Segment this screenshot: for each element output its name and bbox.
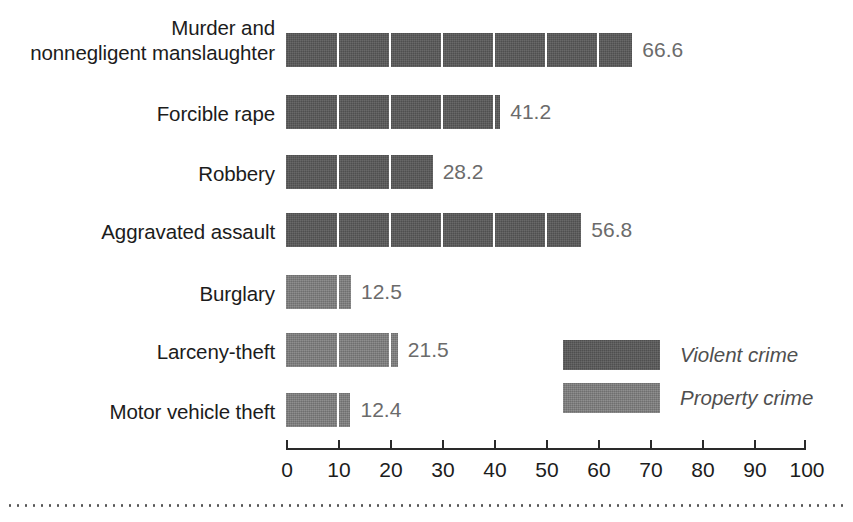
bar-segment-separators: [286, 213, 581, 247]
bar-property: [286, 333, 398, 367]
footer-dotted-rule: [6, 504, 849, 507]
bar-segment-separators: [286, 33, 632, 67]
legend-swatch-property-crime: [563, 383, 660, 413]
bar-segment-separator: [441, 95, 443, 129]
x-axis-tick-label: 0: [281, 458, 293, 482]
legend-label-property-crime: Property crime: [680, 386, 813, 410]
bar-segment-separator: [389, 333, 391, 367]
bar-property: [286, 275, 351, 309]
bar-segment-separator: [337, 155, 339, 189]
x-axis-tick-label: 60: [587, 458, 610, 482]
bar-segment-separator: [337, 275, 339, 309]
bar-segment-separator: [493, 213, 495, 247]
bar-segment-separator: [493, 33, 495, 67]
category-label: Motor vehicle theft: [109, 399, 275, 424]
x-axis-tick-label: 100: [789, 458, 824, 482]
bar-violent: [286, 95, 500, 129]
x-axis-tick: [650, 440, 652, 448]
bar-segment-separator: [389, 155, 391, 189]
x-axis-line: [286, 448, 806, 450]
legend-label-violent-crime: Violent crime: [680, 343, 798, 367]
bar-value-label: 28.2: [443, 155, 484, 189]
x-axis-tick-label: 30: [431, 458, 454, 482]
bar-segment-separator: [389, 213, 391, 247]
x-axis-tick: [546, 440, 548, 448]
bar-segment-separator: [441, 33, 443, 67]
category-label: Forcible rape: [157, 101, 275, 126]
x-axis-tick-label: 10: [327, 458, 350, 482]
bar-value-label: 56.8: [591, 213, 632, 247]
bar-segment-separator: [545, 213, 547, 247]
category-label: Larceny-theft: [157, 339, 275, 364]
category-label: Aggravated assault: [101, 219, 275, 244]
x-axis-tick: [286, 440, 288, 448]
x-axis-tick: [754, 440, 756, 448]
legend-item-property: Property crime: [563, 383, 813, 413]
bar-segment-separators: [286, 275, 351, 309]
x-axis-tick: [390, 440, 392, 448]
x-axis-tick: [442, 440, 444, 448]
x-axis-tick: [338, 440, 340, 448]
x-axis-tick-label: 80: [691, 458, 714, 482]
x-axis-tick-label: 70: [639, 458, 662, 482]
category-label: Murder and nonnegligent manslaughter: [30, 15, 275, 65]
bar-segment-separator: [493, 95, 495, 129]
x-axis-tick: [804, 440, 806, 448]
x-axis-tick: [702, 440, 704, 448]
bar-segment-separators: [286, 393, 350, 427]
category-label: Burglary: [199, 281, 275, 306]
bar-value-label: 21.5: [408, 333, 449, 367]
bar-segment-separator: [597, 33, 599, 67]
bar-segment-separator: [337, 213, 339, 247]
bar-violent: [286, 155, 433, 189]
legend-swatch-violent-crime: [563, 340, 660, 370]
bar-segment-separator: [337, 393, 339, 427]
bar-segment-separator: [337, 333, 339, 367]
bar-value-label: 66.6: [642, 33, 683, 67]
bar-segment-separator: [337, 33, 339, 67]
x-axis-tick-label: 90: [743, 458, 766, 482]
bar-property: [286, 393, 350, 427]
bar-segment-separator: [337, 95, 339, 129]
bar-segment-separator: [389, 95, 391, 129]
bar-segment-separator: [545, 33, 547, 67]
bar-value-label: 12.4: [360, 393, 401, 427]
bar-violent: [286, 213, 581, 247]
x-axis-tick-label: 50: [535, 458, 558, 482]
horizontal-bar-chart: Murder and nonnegligent manslaughterForc…: [0, 0, 853, 522]
category-label: Robbery: [198, 161, 275, 186]
x-axis-tick-label: 20: [379, 458, 402, 482]
bar-segment-separator: [389, 33, 391, 67]
x-axis-tick-label: 40: [483, 458, 506, 482]
x-axis-tick: [494, 440, 496, 448]
bar-value-label: 12.5: [361, 275, 402, 309]
x-axis-tick: [598, 440, 600, 448]
bar-segment-separators: [286, 333, 398, 367]
bar-segment-separators: [286, 155, 433, 189]
bar-value-label: 41.2: [510, 95, 551, 129]
bar-violent: [286, 33, 632, 67]
legend-item-violent: Violent crime: [563, 340, 798, 370]
bar-segment-separator: [441, 213, 443, 247]
bar-segment-separators: [286, 95, 500, 129]
